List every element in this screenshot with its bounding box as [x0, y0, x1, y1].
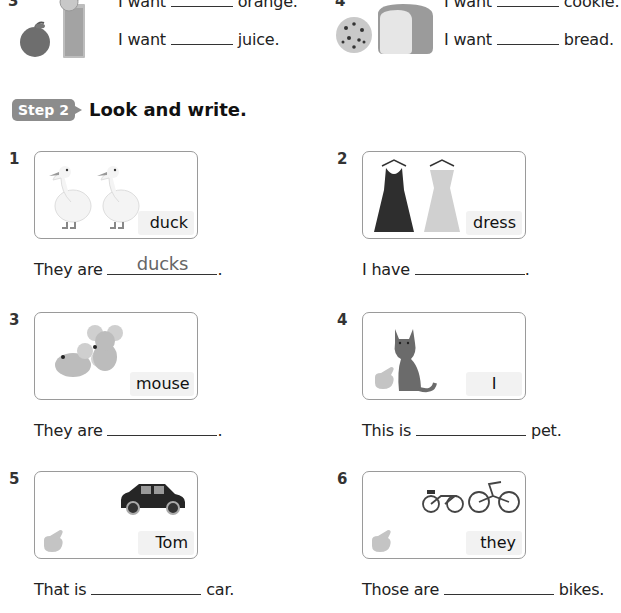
- exercise-card-2: dress: [362, 151, 526, 239]
- sentence-text: bikes.: [559, 580, 604, 599]
- cue-word: dress: [466, 211, 522, 235]
- sentence-text: juice.: [238, 30, 280, 49]
- mice-image: [43, 319, 143, 395]
- pointing-hand-icon: [371, 365, 397, 391]
- exercise-sentence-2: I have .: [362, 260, 530, 279]
- exercise-number-4: 4: [337, 311, 347, 329]
- step-heading: Step 2: [12, 99, 75, 121]
- exercise-sentence-4: This is pet.: [362, 421, 562, 440]
- sentence-text: They are: [34, 421, 103, 440]
- car-image: [117, 478, 189, 518]
- sentence-text: I want: [118, 30, 166, 49]
- exercise-card-4: I: [362, 312, 526, 400]
- answer-blank[interactable]: [91, 580, 201, 595]
- exercise-sentence-6: Those are bikes.: [362, 580, 604, 599]
- sentence-3a: I want orange.: [118, 0, 298, 11]
- sentence-text: I want: [444, 0, 492, 11]
- cue-word: Tom: [138, 531, 194, 555]
- dresses-image: [368, 154, 468, 236]
- sentence-text: .: [217, 260, 222, 279]
- answer-blank[interactable]: [415, 260, 525, 275]
- exercise-card-6: they: [362, 471, 526, 559]
- orange-juice-image: [18, 0, 98, 62]
- sentence-4a: I want cookie.: [444, 0, 619, 11]
- sentence-text: pet.: [531, 421, 562, 440]
- answer-blank[interactable]: [497, 30, 559, 45]
- sentence-4b: I want bread.: [444, 30, 614, 49]
- sentence-text: orange.: [238, 0, 298, 11]
- sentence-3b: I want juice.: [118, 30, 279, 49]
- sentence-text: I want: [444, 30, 492, 49]
- cue-word: they: [466, 531, 522, 555]
- exercise-sentence-5: That is car.: [34, 580, 234, 599]
- exercise-number-2: 2: [337, 150, 347, 168]
- exercise-number-6: 6: [337, 470, 347, 488]
- step-badge: Step 2: [12, 99, 75, 121]
- pointing-hand-icon: [368, 528, 394, 554]
- answer-blank[interactable]: [497, 0, 559, 7]
- exercise-card-5: Tom: [34, 471, 198, 559]
- cookie-bread-image: [334, 2, 434, 57]
- answer-blank[interactable]: [416, 421, 526, 436]
- answer-text: ducks: [107, 253, 217, 274]
- sentence-text: car.: [206, 580, 234, 599]
- cue-word: duck: [138, 211, 194, 235]
- exercise-number-3: 3: [9, 311, 19, 329]
- sentence-text: I want: [118, 0, 166, 11]
- sentence-text: .: [525, 260, 530, 279]
- step-title: Look and write.: [89, 99, 247, 120]
- item-number-3: 3: [8, 0, 18, 10]
- sentence-text: .: [217, 421, 222, 440]
- sentence-text: That is: [34, 580, 86, 599]
- exercise-sentence-3: They are .: [34, 421, 222, 440]
- exercise-card-3: mouse: [34, 312, 198, 400]
- exercise-number-1: 1: [9, 150, 19, 168]
- sentence-text: bread.: [564, 30, 614, 49]
- exercise-sentence-1: They are ducks .: [34, 260, 222, 279]
- sentence-text: Those are: [362, 580, 439, 599]
- exercise-number-5: 5: [9, 470, 19, 488]
- sentence-text: They are: [34, 260, 103, 279]
- answer-blank[interactable]: [107, 421, 217, 436]
- cue-word: mouse: [130, 372, 194, 396]
- bikes-image: [421, 478, 521, 518]
- answer-blank[interactable]: [444, 580, 554, 595]
- answer-blank[interactable]: ducks: [107, 260, 217, 275]
- answer-blank[interactable]: [171, 0, 233, 7]
- sentence-text: I have: [362, 260, 410, 279]
- sentence-text: This is: [362, 421, 411, 440]
- exercise-card-1: duck: [34, 151, 198, 239]
- pointing-hand-icon: [40, 528, 66, 554]
- cue-word: I: [466, 372, 522, 396]
- answer-blank[interactable]: [171, 30, 233, 45]
- sentence-text: cookie.: [564, 0, 620, 11]
